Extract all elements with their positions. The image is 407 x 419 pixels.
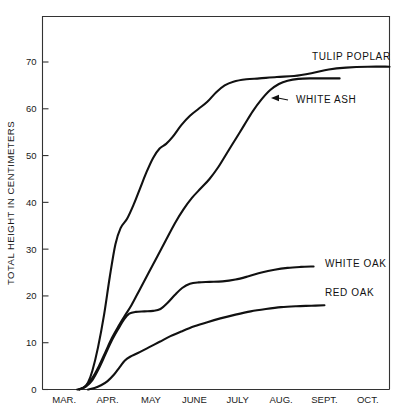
y-tick-group: 010203040506070	[26, 56, 49, 395]
series-line-white-oak	[79, 266, 313, 389]
axis-group	[43, 17, 390, 390]
series-label-red-oak: RED OAK	[325, 287, 374, 298]
white-ash-leader-arrow-icon	[271, 95, 279, 101]
white-ash-leader-line	[278, 98, 288, 100]
y-tick-label: 10	[26, 337, 37, 348]
y-tick-label: 20	[26, 290, 37, 301]
series-line-tulip-poplar	[77, 67, 389, 390]
series-lines-group	[77, 67, 389, 390]
x-tick-label-0: MAR.	[52, 394, 76, 405]
series-label-white-ash: WHITE ASH	[296, 94, 356, 105]
plot-frame	[43, 17, 390, 390]
x-tick-label-3: JUNE	[182, 394, 207, 405]
series-label-tulip-poplar: TULIP POPLAR	[312, 51, 391, 62]
y-tick-label: 0	[31, 384, 36, 395]
y-tick-label: 30	[26, 244, 37, 255]
y-axis-title-group: TOTAL HEIGHT IN CENTIMETERS	[5, 121, 16, 285]
x-tick-group: MAR.APR.MAYJUNEJULYAUG.SEPT.OCT.	[52, 394, 378, 405]
series-labels-group: TULIP POPLARWHITE ASHWHITE OAKRED OAK	[271, 51, 391, 298]
x-tick-label-1: APR.	[96, 394, 118, 405]
x-tick-label-7: OCT.	[357, 394, 379, 405]
growth-chart-figure: 010203040506070 MAR.APR.MAYJUNEJULYAUG.S…	[0, 0, 407, 419]
y-tick-label: 40	[26, 197, 37, 208]
x-tick-label-2: MAY	[141, 394, 162, 405]
x-tick-label-4: JULY	[226, 394, 249, 405]
y-tick-label: 50	[26, 150, 37, 161]
y-axis-title: TOTAL HEIGHT IN CENTIMETERS	[5, 121, 16, 285]
y-tick-label: 70	[26, 56, 37, 67]
series-label-white-oak: WHITE OAK	[325, 258, 387, 269]
x-tick-label-5: AUG.	[269, 394, 292, 405]
x-tick-label-6: SEPT.	[311, 394, 337, 405]
chart-canvas: 010203040506070 MAR.APR.MAYJUNEJULYAUG.S…	[0, 0, 407, 419]
y-tick-label: 60	[26, 103, 37, 114]
